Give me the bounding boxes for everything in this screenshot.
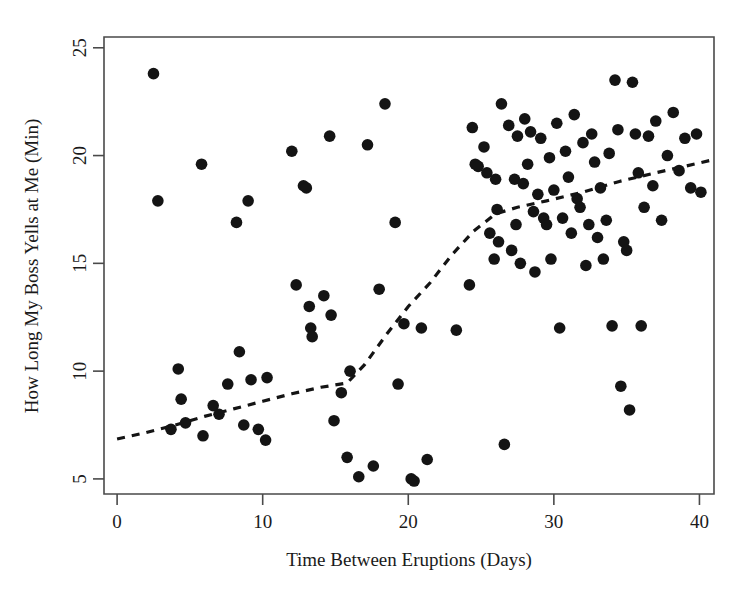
data-point bbox=[535, 133, 547, 145]
data-point bbox=[574, 202, 586, 214]
data-point bbox=[478, 141, 490, 153]
data-point bbox=[624, 404, 636, 416]
data-point bbox=[238, 419, 250, 431]
data-point bbox=[234, 346, 246, 358]
data-point bbox=[528, 206, 540, 218]
y-tick-label: 10 bbox=[69, 362, 90, 381]
data-point bbox=[242, 195, 254, 207]
data-point bbox=[691, 128, 703, 140]
data-point bbox=[586, 128, 598, 140]
data-point bbox=[325, 309, 337, 321]
x-tick-label: 40 bbox=[690, 511, 709, 532]
data-point bbox=[557, 212, 569, 224]
data-point bbox=[421, 454, 433, 466]
data-point bbox=[603, 148, 615, 160]
data-point bbox=[612, 124, 624, 136]
x-axis-ticks bbox=[117, 494, 699, 505]
data-point bbox=[600, 214, 612, 226]
data-point bbox=[301, 182, 313, 194]
data-point bbox=[643, 130, 655, 142]
data-point bbox=[541, 219, 553, 231]
data-point bbox=[503, 120, 515, 132]
data-point bbox=[609, 74, 621, 86]
data-point bbox=[529, 266, 541, 278]
x-axis-title: Time Between Eruptions (Days) bbox=[286, 549, 532, 571]
trend-line-path bbox=[117, 160, 712, 439]
x-tick-label: 10 bbox=[253, 511, 272, 532]
trend-line bbox=[117, 160, 712, 439]
data-point bbox=[260, 434, 272, 446]
data-point bbox=[231, 217, 243, 229]
data-point bbox=[493, 236, 505, 248]
x-tick-label: 30 bbox=[544, 511, 563, 532]
data-point bbox=[662, 150, 674, 162]
data-points bbox=[148, 68, 707, 487]
data-point bbox=[679, 133, 691, 145]
y-tick-label: 5 bbox=[69, 474, 90, 484]
data-point bbox=[568, 109, 580, 121]
data-point bbox=[222, 378, 234, 390]
data-point bbox=[512, 130, 524, 142]
data-point bbox=[621, 245, 633, 257]
data-point bbox=[408, 475, 420, 487]
data-point bbox=[172, 363, 184, 375]
data-point bbox=[554, 322, 566, 334]
data-point bbox=[592, 232, 604, 244]
data-point bbox=[635, 320, 647, 332]
data-point bbox=[517, 178, 529, 190]
data-point bbox=[506, 245, 518, 257]
y-tick-label: 15 bbox=[69, 254, 90, 273]
data-point bbox=[148, 68, 160, 80]
plot-border bbox=[104, 37, 714, 494]
x-tick-label: 20 bbox=[399, 511, 418, 532]
data-point bbox=[589, 156, 601, 168]
y-axis-tick-labels: 510152025 bbox=[69, 38, 90, 483]
data-point bbox=[245, 374, 257, 386]
plot-canvas: 010203040 510152025 Time Between Eruptio… bbox=[0, 0, 755, 592]
data-point bbox=[563, 171, 575, 183]
data-point bbox=[373, 283, 385, 295]
data-point bbox=[362, 139, 374, 151]
data-point bbox=[695, 186, 707, 198]
data-point bbox=[615, 380, 627, 392]
data-point bbox=[341, 452, 353, 464]
data-point bbox=[196, 158, 208, 170]
x-axis-tick-labels: 010203040 bbox=[112, 511, 709, 532]
data-point bbox=[650, 115, 662, 127]
data-point bbox=[484, 227, 496, 239]
data-point bbox=[515, 258, 527, 270]
data-point bbox=[353, 471, 365, 483]
data-point bbox=[510, 219, 522, 231]
data-point bbox=[580, 260, 592, 272]
scatter-plot-figure: 010203040 510152025 Time Between Eruptio… bbox=[0, 0, 755, 592]
x-tick-label: 0 bbox=[112, 511, 122, 532]
data-point bbox=[328, 415, 340, 427]
data-point bbox=[392, 378, 404, 390]
data-point bbox=[318, 290, 330, 302]
data-point bbox=[290, 279, 302, 291]
data-point bbox=[261, 372, 273, 384]
data-point bbox=[598, 253, 610, 265]
data-point bbox=[286, 145, 298, 157]
data-point bbox=[379, 98, 391, 110]
data-point bbox=[464, 279, 476, 291]
data-point bbox=[488, 253, 500, 265]
data-point bbox=[306, 331, 318, 343]
data-point bbox=[324, 130, 336, 142]
data-point bbox=[656, 214, 668, 226]
data-point bbox=[532, 189, 544, 201]
y-axis-title: How Long My Boss Yells at Me (Min) bbox=[21, 119, 43, 414]
data-point bbox=[525, 126, 537, 138]
plot-frame bbox=[104, 37, 714, 494]
data-point bbox=[577, 137, 589, 149]
data-point bbox=[253, 424, 265, 436]
data-point bbox=[560, 145, 572, 157]
data-point bbox=[303, 301, 315, 313]
data-point bbox=[545, 253, 557, 265]
data-point bbox=[667, 107, 679, 119]
data-point bbox=[647, 180, 659, 192]
data-point bbox=[165, 424, 177, 436]
y-tick-label: 20 bbox=[69, 146, 90, 165]
data-point bbox=[152, 195, 164, 207]
data-point bbox=[630, 128, 642, 140]
